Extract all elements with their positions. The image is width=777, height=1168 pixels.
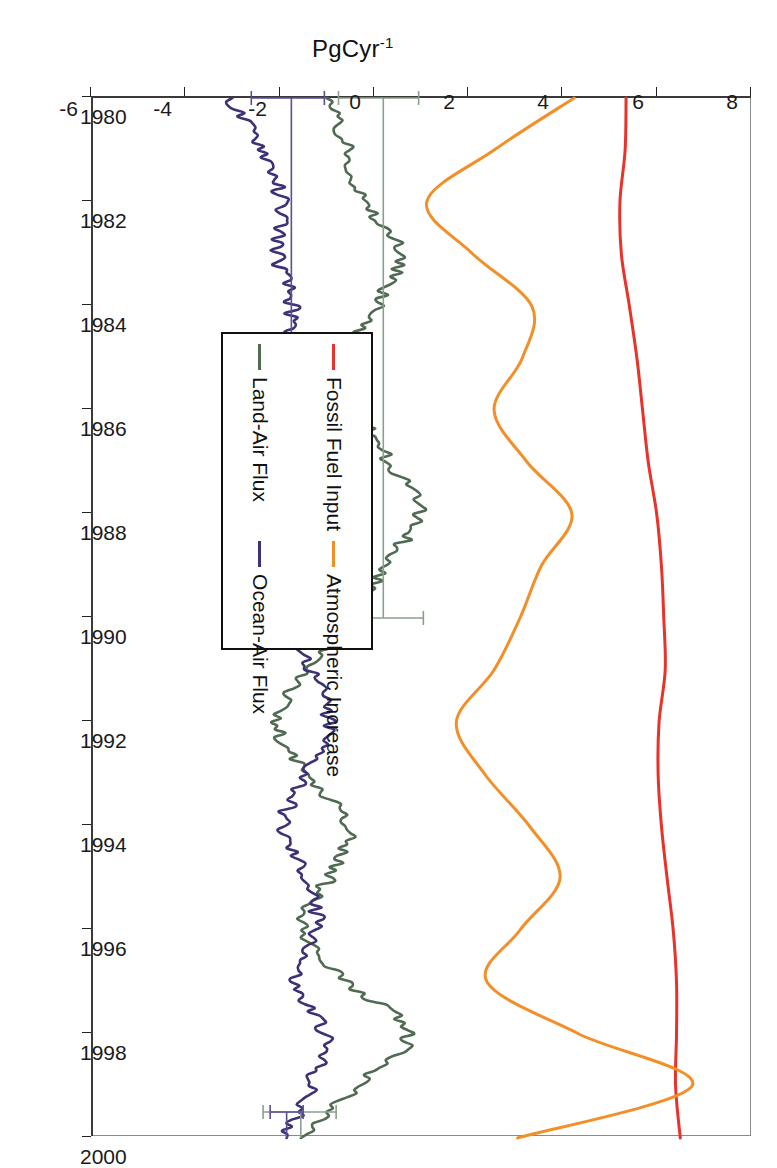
series-canvas (91, 98, 751, 1138)
x-axis-tick (82, 616, 91, 617)
x-axis-tick (82, 200, 91, 201)
y-axis-tick-label: -2 (248, 97, 267, 121)
series-line (426, 98, 692, 1138)
x-axis-tick (82, 928, 91, 929)
legend-item-label: Land-Air Flux (248, 377, 272, 502)
legend-item-label: Ocean-Air Flux (248, 574, 272, 714)
legend-item-label: Atmospheric Increase (322, 574, 346, 777)
x-axis-tick-label: 1996 (80, 937, 127, 961)
x-axis-tick-label: 1986 (80, 417, 127, 441)
y-axis-tick (656, 87, 657, 96)
x-axis-tick-label: 1992 (80, 729, 127, 753)
y-axis-tick-label: 8 (726, 90, 738, 114)
legend-item-label: Fossil Fuel Input (322, 377, 346, 531)
y-axis-title: PgCyr-1 (312, 34, 393, 63)
y-axis-tick (467, 87, 468, 96)
legend-color-swatch (259, 344, 262, 370)
y-axis-tick (373, 87, 374, 96)
y-axis-tick-label: 6 (632, 90, 644, 114)
y-axis-tick (561, 87, 562, 96)
y-axis-tick (184, 87, 185, 96)
y-axis-tick (750, 87, 751, 96)
legend-item[interactable]: Ocean-Air Flux (248, 531, 272, 777)
x-axis-tick-label: 1998 (80, 1041, 127, 1065)
legend-item[interactable]: Fossil Fuel Input (322, 334, 346, 531)
y-axis-tick-label: 0 (349, 90, 361, 114)
legend-color-swatch (259, 541, 262, 567)
legend-box: Fossil Fuel InputAtmospheric IncreaseLan… (221, 332, 373, 650)
plot-area (91, 96, 751, 1136)
x-axis-tick-label: 2000 (80, 1145, 127, 1168)
x-axis-tick-label: 1980 (80, 105, 127, 129)
x-axis-tick (82, 96, 91, 97)
x-axis-tick (82, 824, 91, 825)
legend-grid: Fossil Fuel InputAtmospheric IncreaseLan… (223, 334, 371, 648)
series-line (620, 98, 681, 1138)
x-axis-tick-label: 1984 (80, 313, 127, 337)
legend-color-swatch (333, 541, 336, 567)
error-bar (270, 1105, 303, 1138)
x-axis-tick (82, 720, 91, 721)
y-axis-title-exponent: -1 (380, 34, 394, 51)
y-axis-tick-label: 2 (443, 90, 455, 114)
x-axis-tick-label: 1994 (80, 833, 127, 857)
y-axis-tick (90, 87, 91, 96)
x-axis-tick-label: 1990 (80, 625, 127, 649)
y-axis-tick (279, 87, 280, 96)
y-axis-tick-label: 4 (538, 90, 550, 114)
x-axis-tick (82, 1032, 91, 1033)
y-axis-tick-label: -4 (154, 97, 173, 121)
x-axis-tick (82, 512, 91, 513)
y-axis-tick-label: -6 (59, 97, 78, 121)
y-axis-title-text: PgCyr (312, 35, 380, 62)
x-axis-tick (82, 1136, 91, 1137)
x-axis-tick-label: 1982 (80, 209, 127, 233)
legend-item[interactable]: Land-Air Flux (248, 334, 272, 531)
x-axis-tick (82, 304, 91, 305)
legend-color-swatch (333, 344, 336, 370)
legend-item[interactable]: Atmospheric Increase (322, 531, 346, 777)
x-axis-tick (82, 408, 91, 409)
x-axis-tick-label: 1988 (80, 521, 127, 545)
